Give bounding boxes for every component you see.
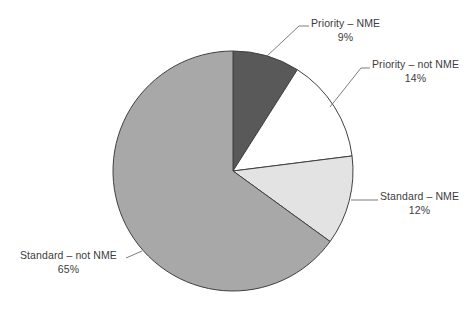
slice-label-priority-not-nme-value: 14% — [372, 72, 459, 86]
slice-label-priority-nme: Priority – NME 9% — [311, 17, 380, 44]
leader-line-standard-not-nme — [126, 251, 142, 258]
slice-label-standard-not-nme-value: 65% — [20, 263, 117, 277]
slice-label-standard-not-nme: Standard – not NME 65% — [20, 249, 117, 276]
slice-label-standard-nme: Standard – NME 12% — [380, 190, 459, 217]
slice-label-standard-nme-value: 12% — [380, 204, 459, 218]
slice-label-standard-nme-name: Standard – NME — [380, 190, 459, 204]
pie-chart: Priority – NME 9% Priority – not NME 14%… — [0, 0, 471, 309]
slice-label-priority-nme-value: 9% — [311, 31, 380, 45]
leader-line-priority-not-nme — [330, 68, 370, 107]
leader-line-priority-nme — [267, 26, 309, 56]
slice-label-priority-not-nme: Priority – not NME 14% — [372, 58, 459, 85]
slice-label-standard-not-nme-name: Standard – not NME — [20, 249, 117, 263]
slice-label-priority-not-nme-name: Priority – not NME — [372, 58, 459, 72]
slice-label-priority-nme-name: Priority – NME — [311, 17, 380, 31]
